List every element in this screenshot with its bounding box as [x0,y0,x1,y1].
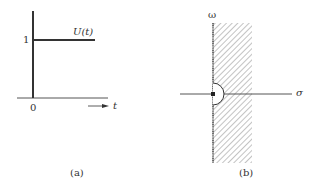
figure [0,0,310,188]
a-origin-label: 0 [30,102,36,113]
a-x-axis-label: t [113,100,117,111]
b-sigma-label: σ [296,87,303,98]
b-caption: (b) [239,167,253,178]
panel-a-unit-step [17,11,109,108]
a-function-label: U(t) [73,26,93,37]
a-caption: (a) [70,167,84,178]
b-origin-marker [211,92,215,96]
b-omega-label: ω [208,9,216,20]
a-y-tick-1: 1 [23,34,29,45]
a-t-arrow-head [102,104,109,108]
panel-b-s-plane [180,23,292,163]
